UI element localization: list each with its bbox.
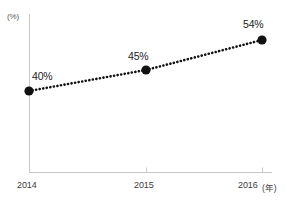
data-point-2015 [141,65,150,74]
x-axis-label-2014: 2014 [17,180,37,190]
axis-lines [29,14,272,173]
data-point-2016 [257,35,266,44]
data-label-2015: 45% [128,50,148,62]
line-chart: (%) 40% 45% 54% 2014 2015 2016 (年) [0,0,287,203]
data-point-2014 [24,86,33,95]
chart-plot-area [0,0,287,203]
x-axis-label-2015: 2015 [134,180,154,190]
data-markers [24,35,266,95]
data-label-2016: 54% [243,18,263,30]
x-axis-label-2016: 2016 [238,180,258,190]
data-label-2014: 40% [32,70,52,82]
x-axis-unit-label: (年) [262,181,277,193]
